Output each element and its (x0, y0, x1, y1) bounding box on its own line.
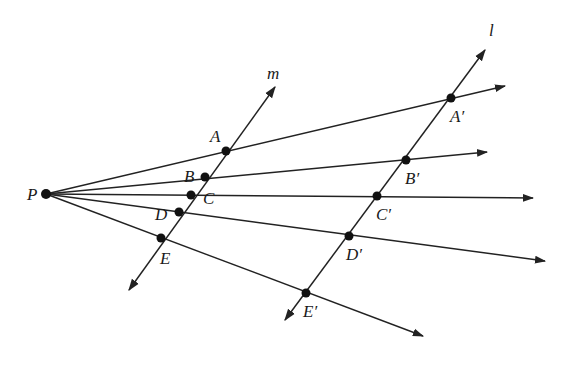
line-l-label: l (489, 22, 494, 39)
point-d-label: D (155, 206, 167, 223)
point-c (187, 191, 196, 200)
point-e-prime (302, 289, 311, 298)
point-d-prime-label: D′ (346, 246, 362, 263)
point-a-label: A (210, 128, 220, 145)
point-c-prime (373, 192, 382, 201)
ray-through-b (46, 152, 487, 194)
point-d-prime (345, 232, 354, 241)
line-l (285, 50, 485, 320)
point-b-prime (402, 156, 411, 165)
point-b-label: B (184, 168, 194, 185)
diagram-canvas: mlPABCDEA′B′C′D′E′ (0, 0, 562, 365)
rays-group (46, 86, 545, 336)
point-c-label: C (203, 190, 214, 207)
point-c-prime-label: C′ (376, 206, 391, 223)
line-m (129, 87, 275, 290)
point-p-label: P (27, 186, 37, 203)
parallel-lines-group (129, 50, 485, 320)
point-a-prime (447, 94, 456, 103)
diagram-svg (0, 0, 562, 365)
ray-through-c (46, 194, 533, 198)
line-m-label: m (267, 65, 279, 82)
point-d (175, 208, 184, 217)
point-p (41, 189, 51, 199)
point-b (201, 173, 210, 182)
point-e-label: E (160, 250, 170, 267)
point-b-prime-label: B′ (405, 170, 419, 187)
ray-through-d (46, 194, 545, 261)
ray-through-a (46, 86, 505, 194)
point-e (157, 234, 166, 243)
point-a (222, 147, 231, 156)
point-e-prime-label: E′ (303, 303, 317, 320)
ray-through-e (46, 194, 423, 336)
point-a-prime-label: A′ (450, 108, 464, 125)
